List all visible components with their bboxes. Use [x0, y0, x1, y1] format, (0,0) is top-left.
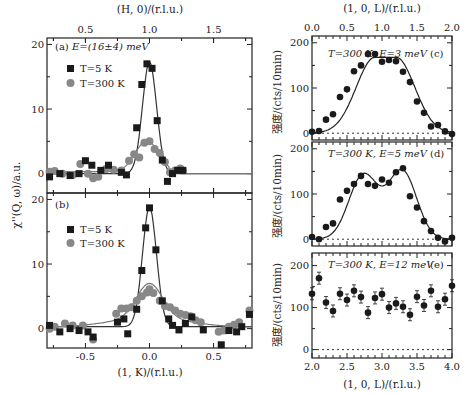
data-point: [309, 129, 316, 136]
panel-b-label: (b): [55, 199, 69, 210]
left-y-axis-label: χ''(Q, ω)/a.u.: [10, 162, 22, 229]
data-point: [146, 204, 153, 211]
data-point: [156, 149, 164, 157]
data-point: [407, 79, 414, 86]
y-tick-label: 10: [31, 104, 44, 115]
data-point: [344, 297, 351, 304]
data-point: [358, 294, 365, 301]
data-point: [323, 116, 330, 123]
right-y-label-c: 强度/(cts/10min): [271, 50, 283, 134]
data-point: [120, 315, 127, 322]
data-point: [165, 315, 172, 322]
data-point: [393, 58, 400, 65]
y-tick-label: 200: [290, 143, 309, 154]
data-point: [309, 234, 316, 241]
x-tick-label: 2.0: [304, 361, 320, 372]
legend-circle-marker: [67, 239, 75, 247]
y-tick-label: 100: [290, 189, 309, 200]
data-point: [133, 124, 140, 131]
legend-square-marker: [67, 226, 74, 233]
data-point: [125, 157, 133, 165]
data-point: [428, 288, 435, 295]
data-point: [218, 341, 225, 348]
data-point: [372, 295, 379, 302]
right-top-axis-label: (1, 0, L)/(r.l.u.): [343, 2, 421, 14]
data-point: [337, 196, 344, 203]
x-tick-label: 0.5: [77, 24, 93, 35]
data-point: [449, 131, 456, 138]
data-point: [197, 318, 205, 326]
y-tick-label: 20: [31, 194, 44, 205]
legend-b-5k: T=5 K: [80, 224, 113, 235]
legend-a: T=5 K T=300 K: [67, 63, 126, 89]
fit-curve: [47, 62, 252, 174]
data-point: [358, 62, 365, 69]
legend-b: T=5 K T=300 K: [67, 224, 126, 249]
panel-e-annotation: T=300 K, E=12 meV: [328, 259, 435, 270]
data-point: [421, 218, 428, 225]
x-tick-label: 1.0: [374, 22, 390, 33]
data-point: [435, 235, 442, 242]
panel-a-label: (a): [55, 41, 69, 52]
legend-square-marker: [67, 65, 74, 72]
data-point: [67, 325, 74, 332]
data-point: [159, 297, 166, 304]
data-point: [188, 314, 195, 321]
data-point: [149, 65, 156, 72]
data-point: [124, 330, 131, 337]
legend-circle-marker: [67, 79, 75, 87]
data-point: [114, 319, 121, 326]
data-point: [97, 167, 104, 174]
data-point: [200, 326, 207, 333]
data-point: [123, 171, 130, 178]
panel-d-label: (d): [430, 148, 444, 159]
data-point: [94, 173, 102, 181]
data-point: [414, 204, 421, 211]
data-point: [379, 291, 386, 298]
panel-c-label: (c): [430, 48, 444, 59]
data-point: [421, 302, 428, 309]
data-point: [152, 246, 159, 253]
data-point: [337, 94, 344, 101]
data-point: [56, 328, 63, 335]
data-point: [428, 228, 435, 235]
data-point: [407, 311, 414, 318]
legend-a-5k: T=5 K: [80, 63, 113, 74]
data-point: [428, 123, 435, 130]
data-point: [316, 275, 323, 282]
data-point: [154, 117, 161, 124]
data-point: [414, 293, 421, 300]
data-point: [365, 181, 372, 188]
y-tick-label: 200: [290, 37, 309, 48]
y-tick-label: 0: [303, 344, 309, 355]
x-tick-label: 1.0: [142, 24, 158, 35]
y-tick-label: 0: [38, 323, 44, 334]
data-point: [358, 173, 365, 180]
data-point: [344, 86, 351, 93]
data-point: [316, 236, 323, 243]
panel-c-annotation: T=300 K, E=3 meV: [328, 48, 429, 59]
x-tick-label: 2.0: [444, 22, 460, 33]
y-tick-label: 10: [31, 259, 44, 270]
y-tick-label: 0: [303, 128, 309, 139]
y-tick-label: 20: [31, 39, 44, 50]
legend-a-300k: T=300 K: [80, 78, 125, 89]
data-point: [379, 176, 386, 183]
x-tick-label: -0.5: [76, 351, 95, 362]
data-point: [442, 296, 449, 303]
data-point: [46, 322, 53, 329]
x-tick-label: 3.5: [409, 361, 425, 372]
data-point: [421, 110, 428, 117]
data-point: [76, 170, 83, 177]
data-point: [442, 238, 449, 245]
left-top-axis-label: (H, 0)/(r.l.u.): [117, 3, 183, 15]
right-y-label-e: 强度/(cts/10min): [271, 263, 283, 347]
data-point: [323, 299, 330, 306]
data-point: [351, 68, 358, 75]
panel-e-label: (e): [430, 259, 444, 270]
right-bottom-axis-label: (1, 0, L)/(r.l.u.): [343, 378, 421, 390]
data-point: [169, 322, 176, 329]
y-tick-label: 100: [290, 83, 309, 94]
data-point: [386, 179, 393, 186]
panel-d-annotation: T=300 K, E=5 meV: [328, 148, 429, 159]
